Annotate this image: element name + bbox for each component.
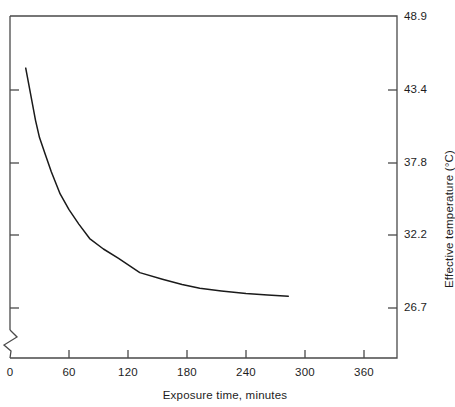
x-tick-label-4: 240 xyxy=(226,366,266,378)
axis-frame xyxy=(4,16,397,358)
y-tick-label-1: 43.4 xyxy=(404,83,427,95)
axis-break-zigzag xyxy=(4,330,17,358)
x-tick-label-6: 360 xyxy=(344,366,384,378)
data-series-line xyxy=(26,68,289,296)
x-axis-title: Exposure time, minutes xyxy=(0,389,450,401)
x-tick-label-5: 300 xyxy=(285,366,325,378)
x-tick-label-3: 180 xyxy=(167,366,207,378)
y-axis-title: Effective temperature (°C) xyxy=(443,150,455,288)
x-tick-label-2: 120 xyxy=(108,366,148,378)
y-axis-ticks-right xyxy=(388,90,397,308)
y-axis-ticks-left xyxy=(10,90,19,308)
y-tick-label-0: 48.9 xyxy=(404,10,427,22)
y-tick-label-2: 37.8 xyxy=(404,156,427,168)
x-tick-label-0: 0 xyxy=(0,366,30,378)
x-axis-ticks xyxy=(69,350,364,358)
y-tick-label-4: 26.7 xyxy=(404,301,427,313)
x-tick-label-1: 60 xyxy=(49,366,89,378)
y-tick-label-3: 32.2 xyxy=(404,228,427,240)
